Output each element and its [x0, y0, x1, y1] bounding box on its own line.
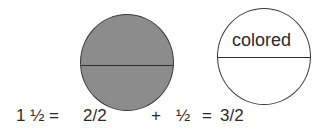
equation-term-whole: 2/2	[83, 106, 107, 126]
equation-equals: =	[202, 106, 212, 126]
half-circle-outline: colored	[217, 8, 311, 105]
colored-label: colored	[232, 30, 291, 51]
equation-lhs: 1 ½ =	[16, 106, 59, 126]
circle-divider-line	[218, 57, 310, 58]
equation-term-half: ½	[176, 106, 190, 126]
equation-plus: +	[151, 106, 161, 126]
whole-circle-shaded	[80, 14, 174, 111]
equation-result: 3/2	[220, 106, 244, 126]
circle-divider-line	[81, 65, 173, 66]
